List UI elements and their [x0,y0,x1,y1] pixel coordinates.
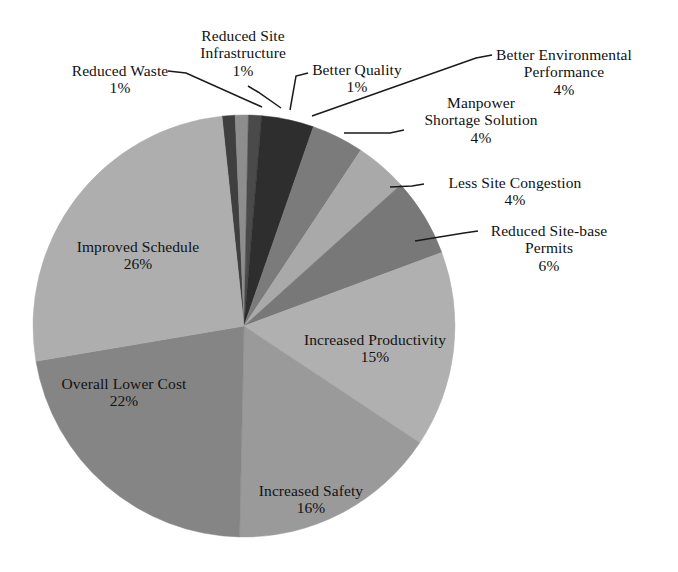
pie-slice-group [33,115,455,537]
slice-label-name: Better Quality [296,61,418,78]
slice-label-value: 1% [178,62,308,79]
slice-label-improved-schedule: Improved Schedule 26% [52,238,224,273]
slice-label-value: 1% [296,78,418,95]
slice-label-overall-lower-cost: Overall Lower Cost 22% [36,375,212,410]
slice-label-reduced-site-base-permits: Reduced Site-base Permits 6% [476,222,622,274]
leader-line-manpower-shortage-solution [344,130,404,133]
slice-label-line2: Infrastructure [178,44,308,61]
slice-label-increased-safety: Increased Safety 16% [232,482,390,517]
slice-label-line2: Shortage Solution [406,111,556,128]
slice-label-value: 1% [52,79,188,96]
slice-label-manpower-shortage-solution: Manpower Shortage Solution 4% [406,94,556,146]
slice-label-value: 15% [282,348,468,365]
slice-label-reduced-waste: Reduced Waste 1% [52,62,188,97]
slice-label-name: Improved Schedule [52,238,224,255]
slice-label-line2: Permits [476,239,622,256]
slice-label-name: Increased Productivity [282,331,468,348]
slice-label-line1: Reduced Site [178,27,308,44]
slice-label-value: 4% [406,129,556,146]
slice-label-name: Overall Lower Cost [36,375,212,392]
slice-label-line2: Performance [480,63,648,80]
pie-slice [36,326,244,537]
leader-line-reduced-site-infrastructure [248,86,281,108]
slice-label-less-site-congestion: Less Site Congestion 4% [422,174,608,209]
slice-label-line1: Better Environmental [480,46,648,63]
slice-label-better-quality: Better Quality 1% [296,61,418,96]
slice-label-line1: Manpower [406,94,556,111]
pie-chart: Reduced Waste 1% Reduced Site Infrastruc… [0,0,678,572]
slice-label-name: Less Site Congestion [422,174,608,191]
slice-label-value: 6% [476,257,622,274]
slice-label-reduced-site-infrastructure: Reduced Site Infrastructure 1% [178,27,308,79]
slice-label-value: 16% [232,499,390,516]
slice-label-increased-productivity: Increased Productivity 15% [282,331,468,366]
slice-label-better-environmental-performance: Better Environmental Performance 4% [480,46,648,98]
slice-label-value: 22% [36,392,212,409]
slice-label-value: 26% [52,255,224,272]
slice-label-name: Reduced Waste [52,62,188,79]
slice-label-name: Increased Safety [232,482,390,499]
slice-label-line1: Reduced Site-base [476,222,622,239]
slice-label-value: 4% [422,191,608,208]
